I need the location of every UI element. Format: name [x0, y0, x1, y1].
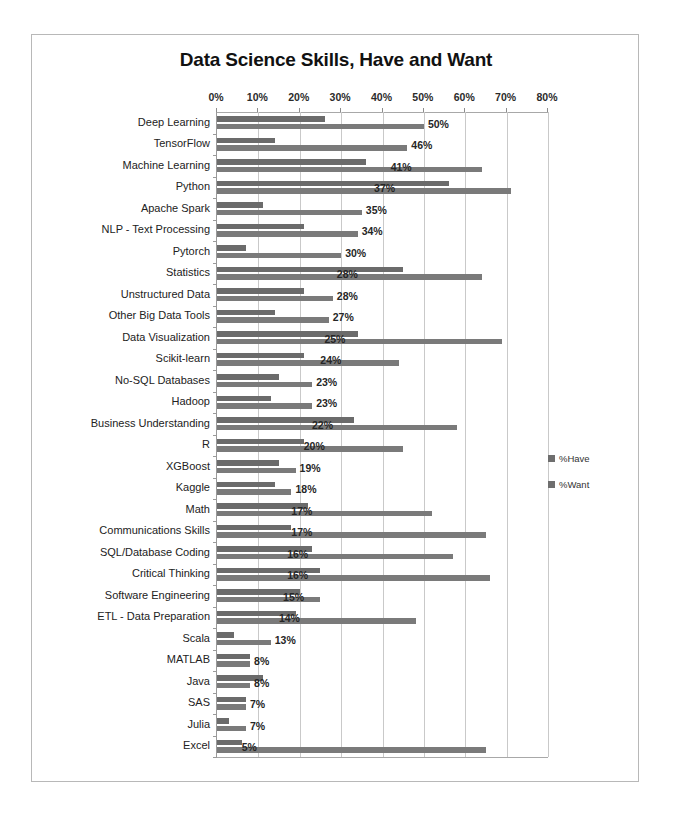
x-axis-tick-mark — [547, 108, 548, 112]
chart-row: ETL - Data Preparation14% — [217, 607, 548, 629]
category-label: Kaggle — [176, 482, 210, 493]
category-label: XGBoost — [166, 461, 210, 472]
data-label: 28% — [337, 291, 358, 302]
data-label: 20% — [304, 441, 325, 452]
bar-have — [217, 224, 304, 229]
chart-legend: %Have%Want — [548, 452, 638, 504]
data-label: 30% — [345, 248, 366, 259]
data-label: 25% — [324, 334, 345, 345]
bar-want — [217, 747, 486, 752]
data-label: 7% — [250, 721, 265, 732]
legend-label: %Have — [559, 453, 590, 464]
category-label: Communications Skills — [99, 525, 210, 536]
data-label: 17% — [291, 527, 312, 538]
chart-row: Excel5% — [217, 736, 548, 758]
category-label: Scikit-learn — [156, 353, 210, 364]
category-label: Software Engineering — [105, 590, 210, 601]
data-label: 46% — [411, 140, 432, 151]
category-label: Business Understanding — [91, 418, 210, 429]
category-label: Pytorch — [173, 246, 210, 257]
x-axis-tick-mark — [340, 108, 341, 112]
x-axis-tick-label: 50% — [412, 91, 433, 103]
x-axis-tick-mark — [299, 108, 300, 112]
data-label: 23% — [316, 377, 337, 388]
chart-row: Other Big Data Tools27% — [217, 306, 548, 328]
data-label: 13% — [275, 635, 296, 646]
data-label: 41% — [391, 162, 412, 173]
x-axis-tick-labels: 0%10%20%30%40%50%60%70%80% — [32, 91, 640, 109]
bar-want — [217, 188, 511, 193]
bar-have — [217, 482, 275, 487]
legend-item[interactable]: %Have — [548, 452, 638, 478]
chart-row: Apache Spark35% — [217, 198, 548, 220]
chart-row: Data Visualization25% — [217, 327, 548, 349]
category-label: SQL/Database Coding — [100, 547, 210, 558]
x-axis-tick-mark — [464, 108, 465, 112]
bar-have — [217, 267, 403, 272]
x-axis-tick-label: 10% — [247, 91, 268, 103]
bar-want — [217, 618, 416, 623]
data-label: 7% — [250, 699, 265, 710]
bar-have — [217, 353, 304, 358]
gridline — [548, 112, 549, 757]
category-label: SAS — [188, 697, 210, 708]
category-label: TensorFlow — [154, 138, 210, 149]
chart-row: Scala13% — [217, 628, 548, 650]
bar-want — [217, 339, 502, 344]
data-label: 24% — [320, 355, 341, 366]
chart-row: Pytorch30% — [217, 241, 548, 263]
bar-have — [217, 718, 229, 723]
chart-row: XGBoost19% — [217, 456, 548, 478]
bar-want — [217, 726, 246, 731]
category-label: Other Big Data Tools — [109, 310, 210, 321]
chart-row: Software Engineering15% — [217, 585, 548, 607]
category-label: Data Visualization — [122, 332, 210, 343]
legend-item[interactable]: %Want — [548, 478, 638, 504]
bar-want — [217, 210, 362, 215]
bar-want — [217, 360, 399, 365]
category-label: Java — [187, 676, 210, 687]
x-axis-tick-label: 60% — [454, 91, 475, 103]
category-label: Scala — [182, 633, 210, 644]
data-label: 28% — [337, 269, 358, 280]
chart-row: No-SQL Databases23% — [217, 370, 548, 392]
x-axis-tick-mark — [423, 108, 424, 112]
bar-have — [217, 159, 366, 164]
category-label: Python — [176, 181, 210, 192]
y-axis-tick-mark — [213, 757, 217, 758]
legend-label: %Want — [559, 479, 589, 490]
x-axis-tick-label: 30% — [330, 91, 351, 103]
x-axis-tick-label: 40% — [371, 91, 392, 103]
legend-swatch-icon — [548, 455, 555, 462]
data-label: 5% — [242, 742, 257, 753]
x-axis-tick-label: 0% — [208, 91, 223, 103]
chart-row: SAS7% — [217, 693, 548, 715]
chart-row: Statistics28% — [217, 263, 548, 285]
bar-have — [217, 417, 354, 422]
data-label: 14% — [279, 613, 300, 624]
category-label: Julia — [187, 719, 210, 730]
chart-row: Scikit-learn24% — [217, 349, 548, 371]
bar-have — [217, 632, 234, 637]
data-label: 15% — [283, 592, 304, 603]
bar-want — [217, 167, 482, 172]
bar-want — [217, 683, 250, 688]
chart-row: Julia7% — [217, 714, 548, 736]
chart-row: R20% — [217, 435, 548, 457]
bar-want — [217, 511, 432, 516]
bar-want — [217, 597, 320, 602]
chart-row: Deep Learning50% — [217, 112, 548, 134]
bar-have — [217, 245, 246, 250]
bar-have — [217, 288, 304, 293]
category-label: R — [202, 439, 210, 450]
data-label: 18% — [295, 484, 316, 495]
x-axis-tick-mark — [257, 108, 258, 112]
data-label: 50% — [428, 119, 449, 130]
category-label: Deep Learning — [138, 117, 210, 128]
bar-want — [217, 296, 333, 301]
bar-want — [217, 489, 291, 494]
x-axis-tick-label: 80% — [536, 91, 557, 103]
bar-want — [217, 382, 312, 387]
data-label: 17% — [291, 506, 312, 517]
category-label: Hadoop — [171, 396, 210, 407]
